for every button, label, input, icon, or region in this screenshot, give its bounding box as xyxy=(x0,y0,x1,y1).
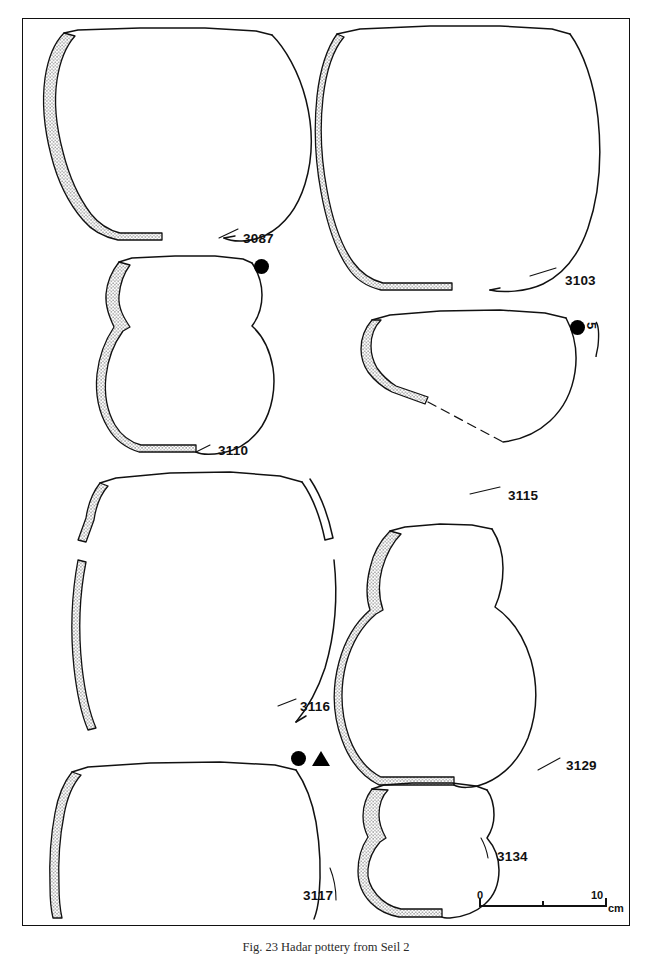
vessel-label-3087: 3087 xyxy=(243,231,274,246)
scale-bar-tick-mid xyxy=(542,901,544,907)
filled-circle-icon-3117 xyxy=(291,751,306,766)
rotated-mark-stroke-3115 xyxy=(592,320,602,358)
filled-circle-icon-3115 xyxy=(570,320,585,335)
scale-bar-start-label: 0 xyxy=(477,889,483,901)
vessel-label-3115: 3115 xyxy=(508,488,538,503)
filled-circle-icon-3110 xyxy=(254,259,269,274)
filled-triangle-icon-3117 xyxy=(312,751,330,766)
vessel-label-3129: 3129 xyxy=(566,758,597,773)
vessel-label-3110: 3110 xyxy=(218,443,248,458)
scale-bar-unit-label: cm xyxy=(608,902,624,914)
figure-caption: Fig. 23 Hadar pottery from Seil 2 xyxy=(0,940,652,954)
vessel-label-3116: 3116 xyxy=(300,699,330,714)
vessel-drawings xyxy=(0,0,652,954)
scale-bar: 0 10 cm xyxy=(479,894,607,916)
scale-bar-tick-end xyxy=(605,898,607,907)
vessel-label-3117: 3117 xyxy=(303,888,333,903)
vessel-label-3134: 3134 xyxy=(497,849,528,864)
pottery-plate: 3087 3103 3110 3115 3116 3129 3117 3134 … xyxy=(0,0,652,954)
scale-bar-end-label: 10 xyxy=(591,889,603,901)
vessel-label-3103: 3103 xyxy=(565,273,596,288)
figure-caption-area: Fig. 23 Hadar pottery from Seil 2 xyxy=(0,940,652,954)
